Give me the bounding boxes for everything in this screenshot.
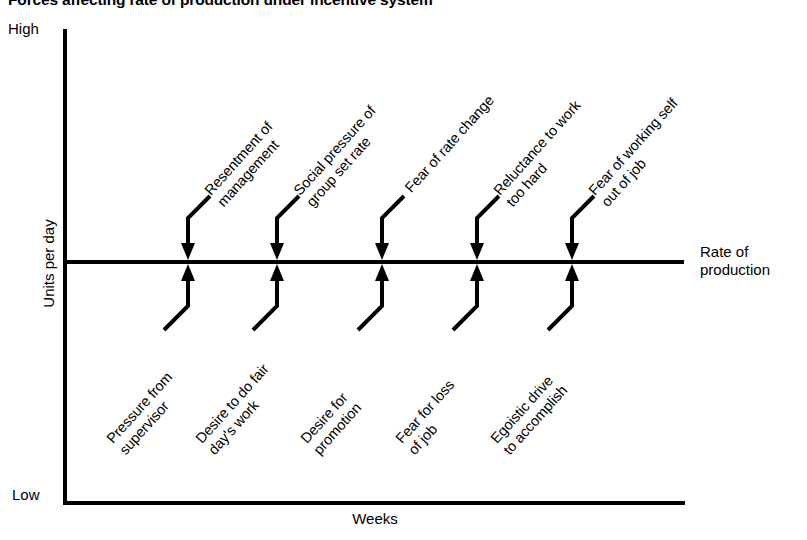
force-field-diagram: Forces affecting rate of production unde…	[0, 0, 807, 540]
restraining-arrow-2	[270, 196, 299, 260]
driving-arrow-3	[358, 264, 389, 330]
force-arrows	[0, 0, 807, 540]
restraining-arrow-1	[181, 196, 210, 260]
driving-arrow-4	[453, 264, 484, 330]
restraining-arrow-4	[470, 196, 499, 260]
driving-arrow-2	[253, 264, 284, 330]
restraining-arrow-3	[375, 196, 404, 260]
driving-arrow-1	[164, 264, 195, 330]
restraining-arrow-5	[565, 196, 594, 260]
driving-arrow-5	[548, 264, 579, 330]
